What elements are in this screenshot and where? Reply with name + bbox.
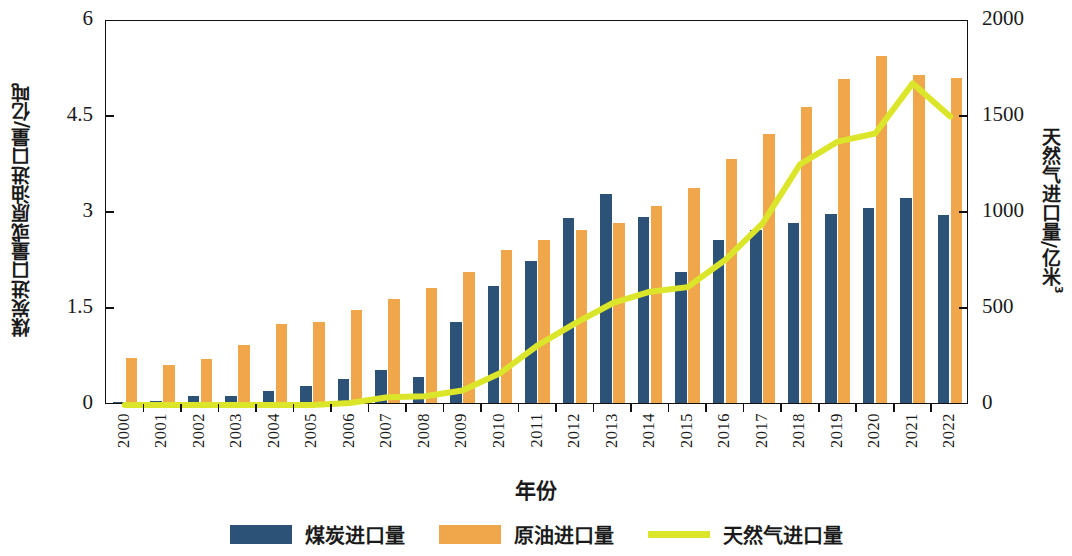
x-tick-2012 bbox=[593, 404, 595, 412]
x-tick-label-2002: 2002 bbox=[189, 413, 213, 448]
y-tick-label-right-500: 500 bbox=[982, 294, 1062, 319]
x-tick-2006 bbox=[368, 404, 370, 412]
y-tick-left-1.5 bbox=[105, 307, 114, 309]
y-tick-right-500 bbox=[959, 307, 968, 309]
x-tick-label-2018: 2018 bbox=[789, 413, 813, 448]
y-tick-label-left-0: 0 bbox=[23, 390, 93, 415]
y-tick-left-3 bbox=[105, 211, 114, 213]
legend-swatch-1 bbox=[439, 525, 501, 544]
gas-import-line bbox=[125, 83, 950, 405]
x-axis-title: 年份 bbox=[0, 474, 1072, 504]
x-tick-label-2001: 2001 bbox=[151, 413, 175, 448]
x-tick-2021 bbox=[930, 404, 932, 412]
x-tick-2017 bbox=[780, 404, 782, 412]
x-tick-2011 bbox=[555, 404, 557, 412]
y-tick-label-right-1500: 1500 bbox=[982, 102, 1062, 127]
legend-item-0[interactable]: 煤炭进口量 bbox=[230, 520, 405, 549]
x-tick-label-2006: 2006 bbox=[339, 413, 363, 448]
x-tick-2018 bbox=[818, 404, 820, 412]
x-tick-2001 bbox=[180, 404, 182, 412]
x-tick-2007 bbox=[405, 404, 407, 412]
x-tick-2016 bbox=[743, 404, 745, 412]
chart-legend: 煤炭进口量原油进口量天然气进口量 bbox=[0, 520, 1072, 549]
x-tick-label-2016: 2016 bbox=[714, 413, 738, 448]
x-tick-2005 bbox=[330, 404, 332, 412]
y-tick-left-4.5 bbox=[105, 115, 114, 117]
y-tick-right-1500 bbox=[959, 115, 968, 117]
y-tick-label-right-0: 0 bbox=[982, 390, 1062, 415]
x-tick-label-2005: 2005 bbox=[301, 413, 325, 448]
x-tick-2009 bbox=[480, 404, 482, 412]
x-tick-label-2012: 2012 bbox=[564, 413, 588, 448]
legend-label-0: 煤炭进口量 bbox=[305, 520, 405, 549]
x-tick-2000 bbox=[143, 404, 145, 412]
y-tick-right-1000 bbox=[959, 211, 968, 213]
legend-swatch-2 bbox=[648, 531, 710, 538]
x-tick-label-2008: 2008 bbox=[414, 413, 438, 448]
x-tick-label-2004: 2004 bbox=[264, 413, 288, 448]
legend-swatch-0 bbox=[230, 525, 292, 544]
y-tick-label-left-4.5: 4.5 bbox=[23, 102, 93, 127]
x-tick-2015 bbox=[705, 404, 707, 412]
y-axis-right-title-superscript: 3 bbox=[1052, 286, 1065, 294]
x-tick-label-2020: 2020 bbox=[864, 413, 888, 448]
x-tick-2019 bbox=[855, 404, 857, 412]
y-tick-label-left-3: 3 bbox=[23, 198, 93, 223]
x-tick-2003 bbox=[255, 404, 257, 412]
x-tick-label-2003: 2003 bbox=[226, 413, 250, 448]
x-tick-label-2013: 2013 bbox=[602, 413, 626, 448]
legend-label-1: 原油进口量 bbox=[514, 520, 614, 549]
plot-area bbox=[105, 20, 968, 404]
x-tick-label-2021: 2021 bbox=[902, 413, 926, 448]
x-tick-label-2009: 2009 bbox=[451, 413, 475, 448]
x-tick-label-2010: 2010 bbox=[489, 413, 513, 448]
x-tick-2013 bbox=[630, 404, 632, 412]
x-tick-label-2007: 2007 bbox=[376, 413, 400, 448]
legend-item-1[interactable]: 原油进口量 bbox=[439, 520, 614, 549]
x-tick-2004 bbox=[293, 404, 295, 412]
legend-item-2[interactable]: 天然气进口量 bbox=[648, 520, 843, 549]
y-tick-label-right-2000: 2000 bbox=[982, 6, 1062, 31]
y-tick-label-left-6: 6 bbox=[23, 6, 93, 31]
x-tick-2014 bbox=[668, 404, 670, 412]
y-tick-label-right-1000: 1000 bbox=[982, 198, 1062, 223]
x-tick-2020 bbox=[893, 404, 895, 412]
x-tick-2010 bbox=[518, 404, 520, 412]
chart-root: 煤炭进口量或原油进口量/亿吨 天然气进口量/亿米3 年份 01.534.5605… bbox=[0, 0, 1072, 556]
gas-line-layer bbox=[106, 21, 969, 405]
x-tick-2002 bbox=[218, 404, 220, 412]
x-tick-label-2011: 2011 bbox=[527, 413, 551, 447]
x-tick-label-2000: 2000 bbox=[114, 413, 138, 448]
x-tick-label-2017: 2017 bbox=[752, 413, 776, 448]
x-tick-label-2015: 2015 bbox=[677, 413, 701, 448]
x-tick-2008 bbox=[443, 404, 445, 412]
x-tick-label-2014: 2014 bbox=[639, 413, 663, 448]
y-tick-label-left-1.5: 1.5 bbox=[23, 294, 93, 319]
x-tick-label-2022: 2022 bbox=[939, 413, 963, 448]
legend-label-2: 天然气进口量 bbox=[723, 520, 843, 549]
x-tick-label-2019: 2019 bbox=[827, 413, 851, 448]
